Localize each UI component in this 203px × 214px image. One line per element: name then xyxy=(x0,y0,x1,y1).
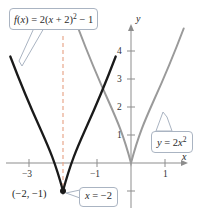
parent-function-callout: y = 2x2 xyxy=(151,131,193,153)
fx-minus-one: − 1 xyxy=(77,14,93,25)
xeq-callout-pointer xyxy=(66,190,80,198)
vertex-coordinates-label: (−2, −1) xyxy=(12,189,47,200)
axes-group xyxy=(6,24,188,208)
y-axis-arrowhead xyxy=(128,24,134,31)
fx-equals: = 2( xyxy=(29,14,49,25)
parabola-transformation-figure: x y −3 −1 1 1 2 3 4 (−2, −1) f(x) = 2(x … xyxy=(0,0,203,214)
graph-canvas xyxy=(0,0,203,214)
xeq-value: = −2 xyxy=(90,190,112,201)
y-axis-label: y xyxy=(136,14,140,24)
x-tick-label--3: −3 xyxy=(22,170,32,180)
y2x2-equals: = 2 xyxy=(162,137,178,148)
x-tick-label-1: 1 xyxy=(163,170,168,180)
y-tick-label-4: 4 xyxy=(117,47,122,57)
x-axis-label: x xyxy=(182,152,186,162)
x-tick-label--1: −1 xyxy=(90,170,100,180)
function-equation-text: f(x) = 2(x + 2)2 − 1 xyxy=(14,14,93,25)
y-tick-label-1: 1 xyxy=(117,131,122,141)
fx-plus-two: + 2) xyxy=(53,14,73,25)
axis-of-symmetry-text: x = −2 xyxy=(85,190,112,201)
function-equation-callout: f(x) = 2(x + 2)2 − 1 xyxy=(9,8,98,30)
fx-callout-pointer xyxy=(19,28,44,66)
y-tick-label-2: 2 xyxy=(117,103,122,113)
y2x2-callout-pointer xyxy=(156,112,172,131)
y2x2-exponent: 2 xyxy=(183,134,187,143)
y-tick-label-3: 3 xyxy=(117,75,122,85)
axis-of-symmetry-callout: x = −2 xyxy=(79,187,118,207)
parent-function-text: y = 2x2 xyxy=(157,137,187,148)
